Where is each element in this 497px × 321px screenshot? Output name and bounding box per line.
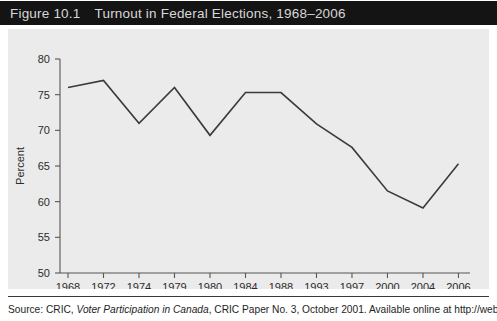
x-tick-label: 1974 bbox=[127, 281, 151, 289]
x-tick-label: 1988 bbox=[269, 281, 293, 289]
page-left-margin bbox=[0, 25, 8, 296]
source-prefix: Source: CRIC, bbox=[8, 304, 77, 315]
figure-container: Figure 10.1 Turnout in Federal Elections… bbox=[0, 0, 497, 321]
turnout-line bbox=[68, 80, 458, 208]
y-tick-label: 75 bbox=[38, 89, 50, 101]
y-tick-label: 60 bbox=[38, 196, 50, 208]
y-axis: 50556065707580 bbox=[38, 53, 60, 279]
x-axis: 1968197219741979198019841988199319972000… bbox=[56, 273, 471, 289]
source-note: Source: CRIC, Voter Participation in Can… bbox=[8, 303, 495, 316]
source-suffix: , CRIC Paper No. 3, October 2001. Availa… bbox=[209, 304, 497, 315]
x-tick-label: 1980 bbox=[198, 281, 222, 289]
turnout-line-series bbox=[68, 80, 458, 208]
x-tick-label: 1997 bbox=[340, 281, 364, 289]
x-tick-label: 1972 bbox=[91, 281, 115, 289]
line-chart-svg: 50556065707580 1968197219741979198019841… bbox=[8, 29, 489, 289]
x-tick-label: 1979 bbox=[162, 281, 186, 289]
chart-plot-panel: 50556065707580 1968197219741979198019841… bbox=[8, 29, 489, 289]
x-tick-label: 2000 bbox=[375, 281, 399, 289]
y-tick-label: 55 bbox=[38, 231, 50, 243]
y-tick-label: 65 bbox=[38, 160, 50, 172]
x-tick-label: 2004 bbox=[411, 281, 435, 289]
y-axis-title: Percent bbox=[14, 147, 26, 185]
source-divider bbox=[8, 296, 489, 297]
x-tick-label: 1968 bbox=[56, 281, 80, 289]
y-tick-label: 70 bbox=[38, 124, 50, 136]
figure-number-label: Figure 10.1 bbox=[10, 6, 81, 21]
figure-title: Turnout in Federal Elections, 1968–2006 bbox=[95, 6, 346, 21]
x-tick-label: 2006 bbox=[446, 281, 470, 289]
figure-title-bar: Figure 10.1 Turnout in Federal Elections… bbox=[0, 1, 497, 25]
x-tick-label: 1993 bbox=[304, 281, 328, 289]
y-tick-label: 50 bbox=[38, 267, 50, 279]
y-tick-label: 80 bbox=[38, 53, 50, 65]
x-tick-label: 1984 bbox=[233, 281, 257, 289]
source-publication-title: Voter Participation in Canada bbox=[77, 304, 209, 315]
